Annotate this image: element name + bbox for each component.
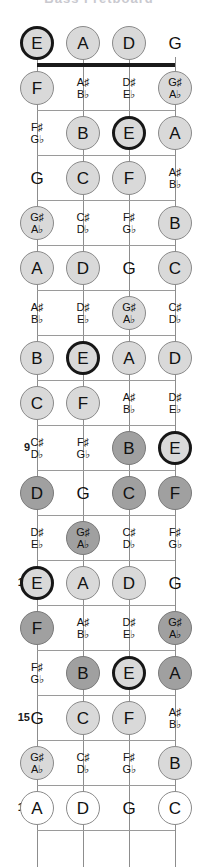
note-label: D [31,485,43,502]
note-marker-D-string-fret-14[interactable]: E [112,656,146,690]
note-marker-A-string-fret-15[interactable]: C [66,701,100,735]
note-marker-E-string-fret-12[interactable]: E [20,566,54,600]
note-marker-E-string-fret-10[interactable]: D [20,476,54,510]
note-marker-D-string-fret-13[interactable]: D♯E♭ [112,611,146,645]
note-marker-G-string-fret-14[interactable]: A [158,656,192,690]
note-marker-D-string-fret-6[interactable]: G♯A♭ [112,296,146,330]
note-marker-E-string-fret-16[interactable]: G♯A♭ [20,746,54,780]
fret-line-13 [37,650,175,651]
fret-line-11 [37,560,175,561]
note-marker-A-string-fret-16[interactable]: C♯D♭ [66,746,100,780]
note-label-sharp: F♯ [77,437,89,448]
note-marker-G-string-fret-15[interactable]: A♯B♭ [158,701,192,735]
note-marker-D-string-fret-10[interactable]: C [112,476,146,510]
note-label-sharp: A♯ [31,302,43,313]
note-marker-G-string-fret-13[interactable]: G♯A♭ [158,611,192,645]
note-marker-A-string-fret-4[interactable]: C♯D♭ [66,206,100,240]
note-marker-G-string-fret-1[interactable]: G♯A♭ [158,71,192,105]
note-label: B [77,665,88,682]
note-label-sharp: G♯ [76,527,90,538]
note-marker-E-string-fret-11[interactable]: D♯E♭ [20,521,54,555]
note-label-flat: D♭ [31,449,44,460]
note-marker-A-string-fret-9[interactable]: F♯G♭ [66,431,100,465]
note-marker-A-string-fret-11[interactable]: G♯A♭ [66,521,100,555]
note-marker-G-string-fret-12[interactable]: G [158,566,192,600]
note-marker-E-string-fret-5[interactable]: A [20,251,54,285]
note-marker-D-string-fret-12[interactable]: D [112,566,146,600]
note-marker-D-string-fret-7[interactable]: A [112,341,146,375]
note-marker-E-string-fret-6[interactable]: A♯B♭ [20,296,54,330]
note-marker-A-string-fret-10[interactable]: G [66,476,100,510]
note-label-sharp: G♯ [168,617,182,628]
note-marker-E-string-fret-1[interactable]: F [20,71,54,105]
note-marker-G-string-fret-11[interactable]: F♯G♭ [158,521,192,555]
note-marker-D-string-fret-17[interactable]: G [112,791,146,825]
note-marker-G-string-fret-16[interactable]: B [158,746,192,780]
note-marker-D-string-fret-15[interactable]: F [112,701,146,735]
note-marker-G-string-fret-8[interactable]: D♯E♭ [158,386,192,420]
note-marker-A-string-fret-17[interactable]: D [66,791,100,825]
note-label: C [123,485,135,502]
note-marker-D-string-fret-4[interactable]: F♯G♭ [112,206,146,240]
note-marker-D-string-fret-11[interactable]: C♯D♭ [112,521,146,555]
fret-line-3 [37,200,175,201]
note-label-flat: G♭ [76,449,89,460]
note-label: C [169,800,181,817]
note-marker-G-string-fret-17[interactable]: C [158,791,192,825]
note-marker-E-string-fret-3[interactable]: G [20,161,54,195]
note-label-sharp: C♯ [76,752,89,763]
note-label-sharp: F♯ [123,752,135,763]
note-marker-A-string-fret-5[interactable]: D [66,251,100,285]
note-label-flat: B♭ [123,404,135,415]
note-marker-E-string-fret-15[interactable]: G [20,701,54,735]
note-marker-E-string-fret-0[interactable]: E [20,26,54,60]
note-marker-G-string-fret-9[interactable]: E [158,431,192,465]
note-marker-G-string-fret-3[interactable]: A♯B♭ [158,161,192,195]
note-marker-E-string-fret-4[interactable]: G♯A♭ [20,206,54,240]
fret-line-2 [37,155,175,156]
note-marker-D-string-fret-2[interactable]: E [112,116,146,150]
note-marker-A-string-fret-12[interactable]: A [66,566,100,600]
note-marker-E-string-fret-17[interactable]: A [20,791,54,825]
note-marker-A-string-fret-1[interactable]: A♯B♭ [66,71,100,105]
note-label-sharp: A♯ [77,77,89,88]
note-label: B [123,440,134,457]
note-marker-G-string-fret-4[interactable]: B [158,206,192,240]
note-marker-A-string-fret-0[interactable]: A [66,26,100,60]
note-label-sharp: G♯ [168,77,182,88]
note-marker-D-string-fret-3[interactable]: F [112,161,146,195]
note-marker-G-string-fret-2[interactable]: A [158,116,192,150]
note-label-sharp: C♯ [122,527,135,538]
note-marker-D-string-fret-16[interactable]: F♯G♭ [112,746,146,780]
note-marker-D-string-fret-8[interactable]: A♯B♭ [112,386,146,420]
note-marker-E-string-fret-7[interactable]: B [20,341,54,375]
note-marker-G-string-fret-0[interactable]: G [158,26,192,60]
note-marker-A-string-fret-7[interactable]: E [66,341,100,375]
note-label-sharp: D♯ [30,527,43,538]
note-marker-E-string-fret-8[interactable]: C [20,386,54,420]
note-marker-D-string-fret-9[interactable]: B [112,431,146,465]
note-label: G [30,170,43,187]
note-marker-A-string-fret-6[interactable]: D♯E♭ [66,296,100,330]
note-marker-A-string-fret-2[interactable]: B [66,116,100,150]
note-marker-A-string-fret-14[interactable]: B [66,656,100,690]
note-label-flat: B♭ [169,719,181,730]
note-marker-G-string-fret-6[interactable]: C♯D♭ [158,296,192,330]
note-marker-G-string-fret-7[interactable]: D [158,341,192,375]
note-marker-G-string-fret-5[interactable]: C [158,251,192,285]
note-label-sharp: F♯ [31,662,43,673]
note-marker-E-string-fret-14[interactable]: F♯G♭ [20,656,54,690]
note-marker-G-string-fret-10[interactable]: F [158,476,192,510]
fret-line-16 [37,785,175,786]
note-marker-E-string-fret-2[interactable]: F♯G♭ [20,116,54,150]
note-marker-D-string-fret-0[interactable]: D [112,26,146,60]
note-marker-A-string-fret-8[interactable]: F [66,386,100,420]
note-marker-A-string-fret-13[interactable]: A♯B♭ [66,611,100,645]
note-label-flat: D♭ [77,224,90,235]
note-marker-D-string-fret-5[interactable]: G [112,251,146,285]
note-label: F [124,710,134,727]
note-marker-D-string-fret-1[interactable]: D♯E♭ [112,71,146,105]
note-marker-E-string-fret-13[interactable]: F [20,611,54,645]
note-marker-E-string-fret-9[interactable]: C♯D♭ [20,431,54,465]
note-marker-A-string-fret-3[interactable]: C [66,161,100,195]
